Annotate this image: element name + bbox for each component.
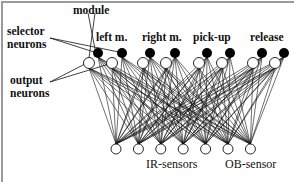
ir-sensor-neuron xyxy=(201,144,211,154)
module-label: module xyxy=(73,4,109,16)
output-neuron xyxy=(248,58,259,69)
output-neuron xyxy=(217,58,228,69)
selector-neuron xyxy=(257,48,267,58)
selector-neuron xyxy=(170,48,180,58)
ir-sensors-label: IR-sensors xyxy=(146,157,198,171)
module-name-right: right m. xyxy=(142,31,182,44)
ir-sensor-neuron xyxy=(178,144,188,154)
neural-network-diagram: module selector neurons output neurons l… xyxy=(0,0,294,182)
output-neuron xyxy=(138,58,149,69)
selector-neuron xyxy=(117,48,127,58)
output-neurons xyxy=(84,58,281,69)
output-neuron xyxy=(84,58,95,69)
connection-lines xyxy=(89,57,284,144)
module-name-pickup: pick-up xyxy=(193,31,231,44)
ir-sensor-neuron xyxy=(111,144,121,154)
selector-neuron xyxy=(279,48,289,58)
selector-neuron xyxy=(145,48,155,58)
module-name-left: left m. xyxy=(96,31,127,43)
output-neuron xyxy=(161,58,172,69)
output-neurons-label-line1: output xyxy=(10,74,43,87)
ir-sensor-neuron xyxy=(223,144,233,154)
ob-sensor-label: OB-sensor xyxy=(225,157,276,171)
selector-neurons-label-line1: selector xyxy=(7,25,45,37)
output-neurons-label-line2: neurons xyxy=(10,87,50,99)
output-neuron xyxy=(270,58,281,69)
selector-pointer-line-1 xyxy=(50,38,94,52)
ir-sensor-neuron xyxy=(156,144,166,154)
selector-neurons-label-line2: neurons xyxy=(7,38,47,50)
ir-sensor-neuron xyxy=(133,144,143,154)
selector-neuron xyxy=(93,48,103,58)
module-name-release: release xyxy=(250,31,284,43)
selector-neuron xyxy=(225,48,235,58)
ob-sensor-neuron xyxy=(245,144,255,154)
output-neuron xyxy=(107,58,118,69)
output-neuron xyxy=(194,58,205,69)
selector-neuron xyxy=(202,48,212,58)
selector-neurons xyxy=(93,48,289,58)
sensor-neurons xyxy=(111,144,255,154)
